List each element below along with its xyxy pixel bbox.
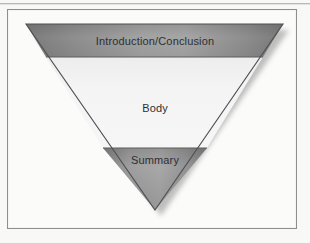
figure-canvas: Introduction/Conclusion Body Summary bbox=[0, 0, 310, 243]
band-label-body: Body bbox=[0, 103, 310, 114]
band-label-introduction: Introduction/Conclusion bbox=[0, 36, 310, 47]
band-label-summary: Summary bbox=[0, 155, 310, 166]
